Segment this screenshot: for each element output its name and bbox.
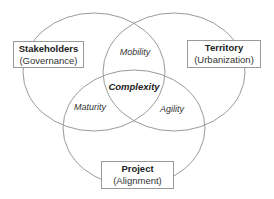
stakeholders-box: Stakeholders (Governance) (13, 41, 84, 68)
stakeholders-title: Stakeholders (14, 43, 83, 55)
territory-subtitle: (Urbanization) (188, 54, 260, 66)
mobility-label: Mobility (120, 47, 151, 57)
territory-box: Territory (Urbanization) (187, 40, 261, 68)
project-subtitle: (Alignment) (102, 175, 173, 187)
project-title: Project (102, 163, 173, 175)
complexity-label: Complexity (108, 81, 159, 92)
maturity-label: Maturity (74, 102, 106, 112)
territory-title: Territory (188, 42, 260, 54)
circle-stakeholders (23, 13, 165, 131)
stakeholders-subtitle: (Governance) (14, 55, 83, 67)
agility-label: Agility (160, 104, 184, 114)
project-box: Project (Alignment) (101, 161, 174, 189)
